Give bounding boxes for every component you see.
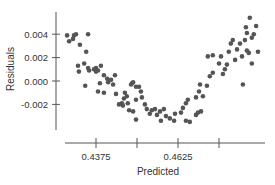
y-axis-title: Residuals — [5, 47, 16, 91]
data-point — [96, 68, 101, 73]
data-point — [231, 38, 236, 43]
data-point — [139, 89, 144, 94]
data-point — [145, 107, 150, 112]
data-point — [219, 54, 224, 59]
x-axis-ticks: 0.43750.4625 — [81, 138, 219, 162]
data-point — [127, 108, 132, 113]
data-point — [252, 32, 257, 37]
data-point — [206, 54, 211, 59]
data-point — [148, 112, 153, 117]
x-tick-label: 0.4375 — [81, 151, 110, 162]
data-point — [78, 42, 83, 47]
data-point — [143, 102, 148, 107]
data-point — [102, 73, 107, 78]
data-point — [125, 94, 130, 99]
data-point — [201, 94, 206, 99]
data-point — [162, 107, 167, 112]
data-point — [134, 97, 139, 102]
data-point — [126, 101, 131, 106]
data-point — [83, 83, 88, 88]
data-point — [173, 112, 178, 117]
data-point — [111, 82, 116, 87]
data-point — [188, 120, 193, 125]
data-point — [179, 110, 184, 115]
data-point — [121, 103, 126, 108]
data-point — [247, 51, 252, 56]
data-point — [254, 24, 259, 29]
data-point — [77, 69, 82, 74]
data-point — [67, 39, 72, 44]
y-axis-ticks: 0.0040.0020.000-0.002 — [21, 29, 60, 110]
data-point — [65, 33, 70, 38]
data-point — [225, 62, 230, 67]
data-point — [99, 64, 104, 69]
data-point — [194, 95, 199, 100]
data-point — [233, 58, 238, 63]
data-point — [199, 109, 204, 114]
data-point — [131, 109, 136, 114]
data-point — [74, 32, 79, 37]
data-point — [250, 61, 255, 66]
data-point — [184, 119, 189, 124]
data-point — [198, 82, 203, 87]
data-point — [82, 61, 87, 66]
data-point — [235, 47, 240, 52]
data-point — [186, 97, 191, 102]
data-point — [98, 81, 103, 86]
residuals-scatter-plot: 0.0040.0020.000-0.002 0.43750.4625 Predi… — [0, 0, 275, 185]
data-point — [238, 41, 243, 46]
y-tick-label: 0.004 — [24, 29, 48, 40]
data-point — [164, 114, 169, 119]
data-point — [109, 78, 114, 83]
data-point — [155, 113, 160, 118]
data-point — [221, 72, 226, 77]
data-point — [217, 61, 222, 66]
data-point — [205, 83, 210, 88]
data-point — [240, 54, 245, 59]
x-axis-title: Predicted — [137, 166, 179, 177]
data-point — [159, 119, 164, 124]
data-point — [134, 117, 139, 122]
data-point — [86, 32, 91, 37]
data-point — [129, 82, 134, 87]
data-point — [102, 90, 107, 95]
data-point — [243, 38, 248, 43]
data-point — [84, 50, 89, 55]
data-point — [96, 89, 101, 94]
data-point — [76, 64, 81, 69]
data-point — [211, 53, 216, 58]
data-point — [241, 82, 246, 87]
data-point — [114, 92, 119, 97]
y-tick-label: 0.000 — [24, 76, 48, 87]
data-point — [113, 73, 118, 78]
y-tick-label: -0.002 — [21, 99, 48, 110]
data-point — [181, 106, 186, 111]
data-point — [208, 74, 213, 79]
data-points — [65, 15, 261, 124]
data-point — [197, 89, 202, 94]
data-point — [158, 109, 163, 114]
data-point — [172, 119, 177, 124]
data-point — [211, 71, 216, 76]
x-tick-label: 0.4625 — [163, 151, 192, 162]
data-point — [227, 50, 232, 55]
data-point — [256, 50, 261, 55]
data-point — [140, 95, 145, 100]
data-point — [168, 116, 173, 121]
data-point — [87, 68, 92, 73]
data-point — [153, 107, 158, 112]
data-point — [137, 85, 142, 90]
data-point — [245, 31, 250, 36]
data-point — [248, 15, 253, 20]
data-point — [223, 67, 228, 72]
data-point — [244, 25, 249, 30]
y-tick-label: 0.002 — [24, 52, 48, 63]
